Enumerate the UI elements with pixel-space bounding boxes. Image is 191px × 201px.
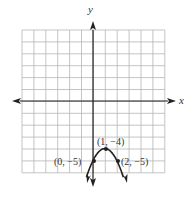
y-axis-up-arrow-icon (90, 21, 96, 30)
label-point-0: (0, −5) (54, 156, 81, 168)
label-vertex: (1, −4) (97, 136, 124, 148)
y-axis-label: y (87, 3, 93, 15)
point-0-neg5 (92, 159, 96, 163)
x-axis-left-arrow-icon (12, 98, 21, 104)
coordinate-plane: y x (1, −4) (0, −5) (2, −5) (0, 0, 191, 201)
x-axis-label: x (178, 94, 184, 106)
x-axis-right-arrow-icon (167, 98, 176, 104)
x-axis (12, 98, 176, 104)
point-2-neg5 (116, 159, 120, 163)
label-point-2: (2, −5) (121, 156, 148, 168)
curve-right-arrow-icon (123, 174, 128, 183)
point-1-neg4 (104, 147, 108, 151)
